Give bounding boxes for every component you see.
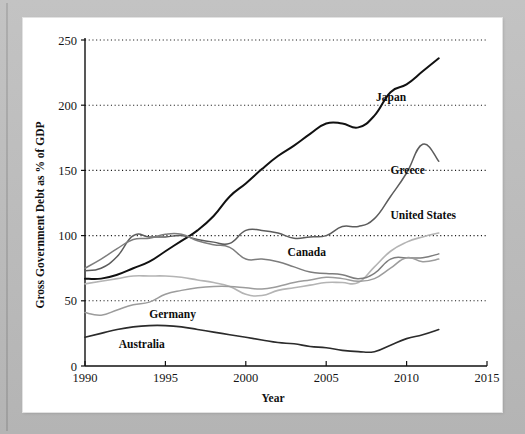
series-line-united-states <box>85 233 439 296</box>
chart-svg: 050100150200250 199019952000200520102015… <box>23 18 502 412</box>
x-tick-label: 2010 <box>394 371 419 385</box>
series-label-united-states: United States <box>391 209 457 221</box>
series-label-canada: Canada <box>288 246 327 258</box>
screenshot-page: 050100150200250 199019952000200520102015… <box>0 0 525 434</box>
y-tick-label: 100 <box>58 229 77 243</box>
figure-panel: 050100150200250 199019952000200520102015… <box>23 18 502 412</box>
series-label-australia: Australia <box>119 338 165 350</box>
x-tick-labels: 199019952000200520102015 <box>73 371 500 385</box>
x-tick-label: 2000 <box>233 371 258 385</box>
x-tick-label: 1990 <box>73 371 98 385</box>
series-label-greece: Greece <box>391 164 425 176</box>
y-tick-label: 150 <box>58 164 77 178</box>
x-axis-title: Year <box>262 392 285 404</box>
x-tick-label: 2015 <box>475 371 500 385</box>
x-tick-label: 2005 <box>314 371 339 385</box>
y-tick-label: 250 <box>58 34 77 48</box>
series-label-germany: Germany <box>149 308 196 321</box>
series-line-greece <box>85 144 439 271</box>
y-tick-labels: 050100150200250 <box>58 34 77 374</box>
line-chart: 050100150200250 199019952000200520102015… <box>23 18 502 412</box>
y-axis-title: Gross Government Debt as % of GDP <box>34 122 46 309</box>
series-label-japan: Japan <box>376 91 407 104</box>
series-labels: JapanGreeceUnited StatesCanadaGermanyAus… <box>119 91 457 349</box>
y-tick-label: 200 <box>58 99 77 113</box>
axis-ticks <box>81 40 487 366</box>
x-tick-label: 1995 <box>153 371 178 385</box>
y-tick-label: 50 <box>65 294 78 308</box>
axes <box>85 38 487 366</box>
